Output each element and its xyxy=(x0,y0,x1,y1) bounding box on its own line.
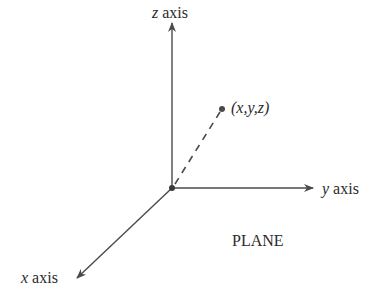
point-label: (x,y,z) xyxy=(231,100,269,116)
dashed-vector-line xyxy=(175,112,220,184)
y-axis-variable: y xyxy=(322,180,329,197)
x-axis-word: axis xyxy=(32,269,58,286)
z-axis-variable: z xyxy=(152,4,158,21)
x-axis-line xyxy=(77,188,172,278)
x-axis-variable: x xyxy=(21,269,28,286)
y-axis-word: axis xyxy=(333,180,359,197)
axes-svg xyxy=(0,0,392,303)
coordinate-system-diagram: z axis (x,y,z) y axis PLANE x axis xyxy=(0,0,392,303)
x-axis-label: x axis xyxy=(21,270,58,286)
y-axis-label: y axis xyxy=(322,181,359,197)
origin-marker xyxy=(169,185,175,191)
z-axis-word: axis xyxy=(162,4,188,21)
point-marker xyxy=(219,106,225,112)
z-axis-label: z axis xyxy=(152,5,188,21)
plane-label: PLANE xyxy=(232,233,284,249)
